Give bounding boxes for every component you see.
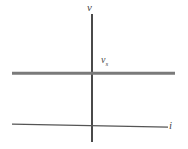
horizontal-current-axis <box>12 124 168 127</box>
source-voltage-label: vs <box>101 55 108 68</box>
vertical-axis-label: v <box>87 2 92 13</box>
iv-characteristic-figure: v vs i <box>0 0 188 149</box>
horizontal-axis-label: i <box>169 120 172 131</box>
plot-canvas <box>0 0 188 149</box>
source-voltage-label-subscript: s <box>105 60 108 68</box>
